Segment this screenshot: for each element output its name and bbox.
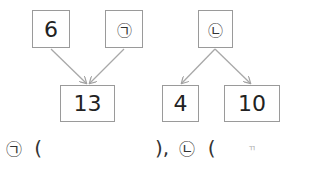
- answer-label-giyeok: ㉠: [6, 136, 22, 160]
- value-four: 4: [174, 91, 188, 116]
- box-giyeok: ㉠: [105, 10, 143, 48]
- close-paren-1: ),: [155, 136, 169, 160]
- stray-mark: ㄲ: [248, 142, 255, 153]
- box-nieun: ㉡: [198, 10, 233, 48]
- value-six: 6: [44, 17, 58, 42]
- arrow-6-to-13: [51, 49, 86, 83]
- label-giyeok: ㉠: [117, 19, 132, 40]
- arrow-nieun-to-4: [182, 49, 215, 83]
- open-paren-1: (: [34, 136, 42, 160]
- value-thirteen: 13: [74, 91, 102, 116]
- open-paren-2: (: [208, 136, 216, 160]
- arrow-nieun-to-10: [215, 49, 250, 83]
- answer-line: ㉠ ( ), ㉡ ( ): [6, 136, 311, 160]
- box-six: 6: [32, 10, 70, 48]
- label-nieun: ㉡: [208, 19, 223, 40]
- box-thirteen: 13: [60, 85, 115, 122]
- arrow-giyeok-to-13: [90, 49, 124, 83]
- value-ten: 10: [238, 91, 266, 116]
- box-ten: 10: [224, 85, 280, 122]
- answer-label-nieun: ㉡: [179, 136, 195, 160]
- box-four: 4: [162, 85, 199, 122]
